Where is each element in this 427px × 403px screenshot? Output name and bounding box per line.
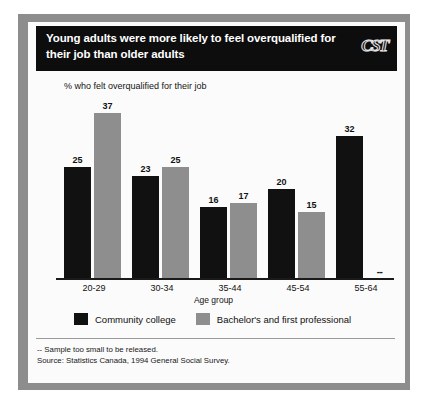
bar: [94, 113, 121, 279]
footnote-separator: [36, 338, 395, 339]
bar-value-label: 25: [162, 155, 189, 165]
bar-value-label: 15: [298, 200, 325, 210]
x-axis-title: Age group: [0, 295, 427, 305]
bar: [298, 212, 325, 279]
bar: [132, 176, 159, 279]
x-tick-label: 45-54: [266, 283, 330, 293]
title-bar: Young adults were more likely to feel ov…: [36, 26, 397, 71]
bar-value-label: 37: [94, 101, 121, 111]
chart-subtitle: % who felt overqualified for their job: [64, 81, 207, 91]
legend-swatch-icon: [196, 313, 210, 325]
x-tick-label: 30-34: [130, 283, 194, 293]
bar-value-label: 32: [336, 124, 363, 134]
legend-label: Bachelor's and first professional: [217, 314, 351, 325]
footnote-suppression-note: -- Sample too small to be released.: [37, 345, 230, 356]
page-title: Young adults were more likely to feel ov…: [46, 31, 336, 62]
legend-label: Community college: [95, 314, 176, 325]
x-tick-label: 20-29: [62, 283, 126, 293]
bar: [162, 167, 189, 279]
bar: [268, 189, 295, 279]
legend-swatch-icon: [74, 313, 88, 325]
bar-group: 2015: [266, 100, 330, 279]
bar: [64, 167, 91, 279]
x-axis-line: [56, 278, 394, 280]
bar: [336, 136, 363, 279]
x-tick-label: 35-44: [198, 283, 262, 293]
bar-value-label: 20: [268, 177, 295, 187]
bar-value-label: 23: [132, 164, 159, 174]
bar-group: 2325: [130, 100, 194, 279]
x-tick-label: 55-64: [334, 283, 398, 293]
bar-value-label: 25: [64, 155, 91, 165]
legend: Community college Bachelor's and first p…: [74, 313, 351, 325]
bar-value-label: 17: [230, 191, 257, 201]
cst-logo: CST: [361, 36, 388, 56]
bar: [230, 203, 257, 279]
figure-root: Young adults were more likely to feel ov…: [0, 0, 427, 403]
footnote-source: Source: Statistics Canada, 1994 General …: [37, 356, 230, 367]
bar-group: 2537: [62, 100, 126, 279]
bar: [200, 207, 227, 279]
bar-group: 32--: [334, 100, 398, 279]
legend-item-bachelors: Bachelor's and first professional: [196, 313, 351, 325]
footnote: -- Sample too small to be released. Sour…: [37, 345, 230, 366]
plot-area: 253723251617201532--: [56, 100, 396, 279]
bar-group: 1617: [198, 100, 262, 279]
bar-value-label: 16: [200, 195, 227, 205]
legend-item-community-college: Community college: [74, 313, 176, 325]
suppressed-marker: --: [366, 266, 393, 277]
